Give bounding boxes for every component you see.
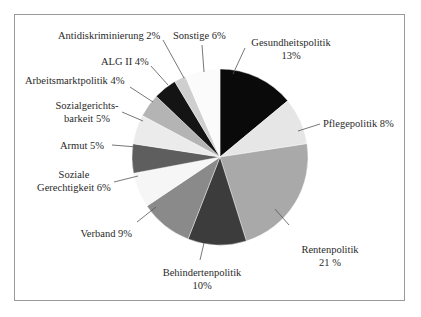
- label-name-line1: Soziale: [34, 168, 114, 181]
- label-antidiskriminierung: Antidiskriminierung 2%: [58, 29, 160, 42]
- label-pflegepolitik: Pflegepolitik 8%: [323, 117, 394, 130]
- label-name: Gesundheitspolitik: [236, 36, 346, 49]
- label-armut: Armut 5%: [40, 139, 104, 152]
- label-percent: 13%: [236, 49, 346, 62]
- label-sonstige: Sonstige 6%: [173, 29, 226, 42]
- pie-slices: [132, 69, 308, 245]
- label-name-line1: Sozialgerichts-: [50, 99, 124, 112]
- label-verband: Verband 9%: [60, 227, 132, 240]
- label-gesundheitspolitik: Gesundheitspolitik 13%: [236, 36, 346, 62]
- label-name: Rentenpolitik: [285, 243, 375, 256]
- label-alg-ii: ALG II 4%: [101, 55, 149, 68]
- label-behindertenpolitik: Behindertenpolitik 10%: [147, 266, 257, 292]
- label-percent: 21 %: [285, 256, 375, 269]
- label-name-line2: barkeit 5%: [50, 112, 124, 125]
- label-rentenpolitik: Rentenpolitik 21 %: [285, 243, 375, 269]
- label-name-line2: Gerechtigkeit 6%: [34, 181, 114, 194]
- label-arbeitsmarktpolitik: Arbeitsmarktpolitik 4%: [25, 74, 124, 87]
- label-soziale-gerechtigkeit: Soziale Gerechtigkeit 6%: [34, 168, 114, 194]
- label-percent: 10%: [147, 279, 257, 292]
- label-name: Behindertenpolitik: [147, 266, 257, 279]
- label-sozialgerichtsbarkeit: Sozialgerichts- barkeit 5%: [50, 99, 124, 125]
